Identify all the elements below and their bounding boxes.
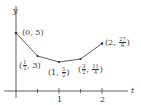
data-point xyxy=(58,61,60,63)
y-axis-label: y xyxy=(13,7,18,15)
x-tick-label-1: 1 xyxy=(57,96,62,104)
point-label-3half-11quarter: (32, 114) xyxy=(78,64,103,75)
chart-canvas xyxy=(0,0,141,105)
x-axis-label: t xyxy=(131,87,134,95)
data-point xyxy=(79,58,81,60)
point-label-1-5half: (1, 52) xyxy=(48,67,70,78)
point-label-half-3: (12, 3) xyxy=(19,60,41,71)
data-point xyxy=(15,32,18,35)
fraction: 114 xyxy=(92,64,99,75)
point-label-0-5: (0, 5) xyxy=(22,29,44,37)
data-point xyxy=(101,42,104,45)
data-line xyxy=(16,33,102,62)
data-point xyxy=(36,55,38,57)
point-label-2-27eighths: (2, 278) xyxy=(105,37,130,48)
x-tick-label-2: 2 xyxy=(100,96,105,104)
fraction: 278 xyxy=(119,37,126,48)
